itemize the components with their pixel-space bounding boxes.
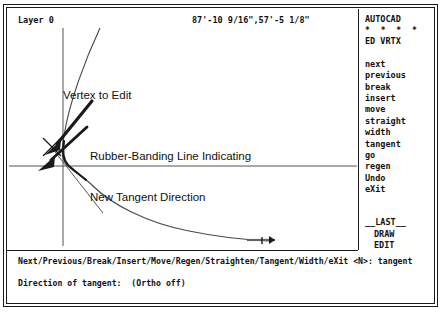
menu-item-previous[interactable]: previous xyxy=(365,70,438,81)
menu-item-straight[interactable]: straight xyxy=(365,116,438,127)
command-status-line[interactable]: Direction of tangent: (Ortho off) xyxy=(18,278,186,288)
menu-item-move[interactable]: move xyxy=(365,104,438,115)
menu-item-next[interactable]: next xyxy=(365,59,438,70)
command-area-separator xyxy=(7,250,358,251)
screen-menu-gap-2 xyxy=(365,195,438,206)
annotation-rubber-line-1: Rubber-Banding Line Indicating xyxy=(90,150,251,164)
command-prompt-line[interactable]: Next/Previous/Break/Insert/Move/Regen/St… xyxy=(18,256,412,266)
menu-item-exit[interactable]: eXit xyxy=(365,184,438,195)
menu-item-draw[interactable]: DRAW xyxy=(365,229,438,240)
annotation-vertex-to-edit: Vertex to Edit xyxy=(63,89,131,103)
screen-menu-panel[interactable]: AUTOCAD * * * * ED VRTX next previous br… xyxy=(358,9,438,250)
autocad-screenshot: Layer 0 87'-10 9/16",57'-5 1/8" xyxy=(0,0,441,312)
screen-menu-header: AUTOCAD xyxy=(365,14,438,25)
annotation-rubber-line-2: New Tangent Direction xyxy=(90,191,251,205)
annotation-rubber-banding: Rubber-Banding Line Indicating New Tange… xyxy=(90,123,251,231)
polyline-endpoint-marker xyxy=(247,236,275,244)
screen-menu-stars[interactable]: * * * * xyxy=(365,25,438,36)
menu-item-tangent[interactable]: tangent xyxy=(365,139,438,150)
menu-item-undo[interactable]: Undo xyxy=(365,173,438,184)
menu-item-break[interactable]: break xyxy=(365,82,438,93)
menu-item-regen[interactable]: regen xyxy=(365,161,438,172)
screen-menu-mode-label: ED VRTX xyxy=(365,36,438,47)
drawing-canvas[interactable]: Vertex to Edit Rubber-Banding Line Indic… xyxy=(7,8,358,248)
menu-item-edit[interactable]: EDIT xyxy=(365,240,438,251)
menu-item-width[interactable]: width xyxy=(365,127,438,138)
screen-menu-gap-3 xyxy=(365,206,438,217)
screen-menu-gap xyxy=(365,48,438,59)
menu-item-last[interactable]: __LAST__ xyxy=(365,217,438,228)
menu-item-insert[interactable]: insert xyxy=(365,93,438,104)
menu-item-go[interactable]: go xyxy=(365,150,438,161)
